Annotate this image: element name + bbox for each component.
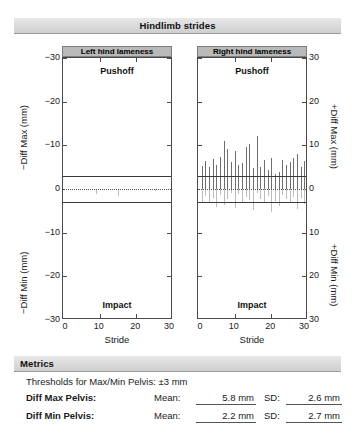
metric-row: Diff Max Pelvis: Mean: 5.8 mm SD: 2.6 mm xyxy=(14,392,341,405)
metric-name: Diff Min Pelvis: xyxy=(26,410,154,421)
y-tick-mark xyxy=(198,145,202,146)
stride-bar-diff-min xyxy=(249,189,250,200)
y-tick-mark xyxy=(302,145,306,146)
right-x-axis-title: Stride xyxy=(197,334,307,345)
threshold-line xyxy=(63,202,171,203)
metrics-title: Metrics xyxy=(20,358,54,369)
stride-bar-diff-min xyxy=(268,189,269,196)
stride-bar-diff-min xyxy=(260,189,261,199)
axis-tick-label: −10 xyxy=(45,139,60,149)
threshold-line xyxy=(198,202,306,203)
y-tick-mark xyxy=(63,145,67,146)
stride-bar-diff-max xyxy=(264,160,265,189)
phase-label-impact-left: Impact xyxy=(63,300,171,310)
page-title: Hindlimb strides xyxy=(139,20,215,31)
page-title-bar: Hindlimb strides xyxy=(14,18,341,34)
stride-bar-diff-min xyxy=(286,189,287,199)
stride-bar-diff-min xyxy=(279,189,280,206)
stride-bar-diff-min xyxy=(202,189,203,203)
axis-tick-label: 10 xyxy=(94,321,104,331)
y-tick-mark xyxy=(167,102,171,103)
stride-bar-diff-max xyxy=(202,166,203,189)
metrics-body: Thresholds for Max/Min Pelvis: ±3 mm Dif… xyxy=(14,376,341,428)
y-tick-mark xyxy=(167,233,171,234)
stride-bar-diff-min xyxy=(209,189,210,202)
x-tick-mark xyxy=(235,58,236,62)
metric-sd-label: SD: xyxy=(264,410,286,421)
x-tick-mark xyxy=(235,314,236,318)
stride-bar-diff-max xyxy=(279,172,280,189)
stride-bar-diff-min xyxy=(275,189,276,201)
panel-left-title: Left hind lameness xyxy=(62,46,172,57)
threshold-text: Thresholds for Max/Min Pelvis: ±3 mm xyxy=(14,376,341,387)
axis-tick-label: 20 xyxy=(309,270,319,280)
stride-bar-diff-min xyxy=(297,189,298,209)
left-axis-title-lower: −Diff Min (mm) xyxy=(18,252,29,314)
axis-tick-label: 0 xyxy=(309,183,314,193)
metric-sd-value: 2.6 mm xyxy=(286,392,342,405)
right-axis-title-lower: +Diff Min (mm) xyxy=(329,244,340,306)
zero-line xyxy=(198,189,306,190)
axis-tick-label: −30 xyxy=(45,52,60,62)
metric-row: Diff Min Pelvis: Mean: 2.2 mm SD: 2.7 mm xyxy=(14,410,341,423)
stride-bar-diff-max xyxy=(238,165,239,189)
metric-sd-label: SD: xyxy=(264,392,286,403)
stride-bar-diff-min xyxy=(118,189,119,196)
axis-tick-label: −20 xyxy=(45,270,60,280)
y-tick-mark xyxy=(63,102,67,103)
x-tick-mark xyxy=(100,58,101,62)
stride-bar-diff-max xyxy=(260,167,261,189)
panel-right-hind-lameness: Right hind lameness Pushoff Impact 01020… xyxy=(197,46,307,319)
y-tick-mark xyxy=(198,276,202,277)
stride-bar-diff-max xyxy=(257,136,258,189)
stride-bar-diff-max xyxy=(301,167,302,189)
x-tick-mark xyxy=(100,314,101,318)
stride-bar-diff-max xyxy=(253,168,254,189)
y-tick-mark xyxy=(302,233,306,234)
stride-bar-diff-min xyxy=(253,189,254,210)
axis-tick-label: 30 xyxy=(164,321,174,331)
axis-tick-label: 10 xyxy=(309,227,319,237)
stride-bar-diff-min xyxy=(271,189,272,212)
stride-bar-diff-min xyxy=(227,189,228,199)
stride-bar-diff-max xyxy=(227,149,228,189)
axis-tick-label: 0 xyxy=(197,321,202,331)
stride-bar-diff-min xyxy=(235,189,236,208)
panel-right-title: Right hind lameness xyxy=(197,46,307,57)
axis-tick-label: 20 xyxy=(265,321,275,331)
y-tick-mark xyxy=(302,276,306,277)
y-tick-mark xyxy=(63,58,67,59)
left-x-tick-labels: 0102030 xyxy=(62,321,172,333)
phase-label-pushoff-left: Pushoff xyxy=(63,66,171,76)
charts-region: −30−20−100−10−20−30 3020100102030 −Diff … xyxy=(0,46,355,346)
stride-bar-diff-max xyxy=(246,147,247,189)
panel-left-hind-lameness: Left hind lameness Pushoff Impact 010203… xyxy=(62,46,172,319)
x-tick-mark xyxy=(136,314,137,318)
axis-tick-label: −30 xyxy=(45,314,60,324)
stride-bar-diff-max xyxy=(235,151,236,189)
stride-bar-diff-min xyxy=(216,189,217,207)
stride-bar-diff-min xyxy=(246,189,247,197)
axis-tick-label: 30 xyxy=(299,321,309,331)
stride-bar-diff-min xyxy=(205,189,206,196)
plot-left-hind-lameness[interactable]: Pushoff Impact xyxy=(62,57,172,319)
zero-line xyxy=(63,189,171,190)
axis-tick-label: 0 xyxy=(62,321,67,331)
y-tick-mark xyxy=(167,58,171,59)
stride-bar-diff-max xyxy=(213,159,214,189)
right-axis-title-upper: +Diff Max (mm) xyxy=(329,104,340,169)
y-tick-mark xyxy=(302,58,306,59)
stride-bar-diff-min xyxy=(290,189,291,202)
phase-label-impact-right: Impact xyxy=(198,300,306,310)
metric-mean-value: 2.2 mm xyxy=(196,410,256,423)
metric-mean-label: Mean: xyxy=(154,392,196,403)
metric-sd-value: 2.7 mm xyxy=(286,410,342,423)
stride-bar-diff-max xyxy=(249,144,250,189)
stride-bar-diff-max xyxy=(282,160,283,189)
stride-bar-diff-min xyxy=(242,189,243,202)
y-tick-mark xyxy=(63,233,67,234)
plot-right-hind-lameness[interactable]: Pushoff Impact xyxy=(197,57,307,319)
stride-bar-diff-max xyxy=(224,141,225,189)
y-tick-mark xyxy=(167,276,171,277)
axis-tick-label: 30 xyxy=(309,52,319,62)
